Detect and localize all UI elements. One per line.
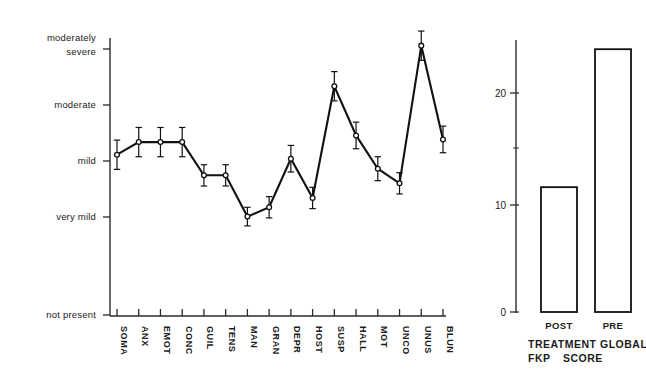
right-y-tick-labels: 20 10 0 <box>495 88 507 318</box>
data-point-unco <box>397 181 402 186</box>
right-y-label-20: 20 <box>495 88 507 99</box>
x-label-depr: DEPR <box>292 326 302 353</box>
x-label-unco: UNCO <box>401 326 411 355</box>
x-label-susp: SUSP <box>336 326 346 353</box>
bar-label-post: POST <box>545 320 572 331</box>
left-y-ticks <box>103 49 110 315</box>
x-label-host: HOST <box>314 326 324 353</box>
data-point-mot <box>375 166 380 171</box>
bar-pre <box>595 49 631 312</box>
data-point-guil <box>202 173 207 178</box>
left-x-ticks <box>117 309 443 316</box>
caption-treatment: TREATMENT <box>528 338 597 350</box>
x-label-mot: MOT <box>379 326 389 348</box>
caption-global: GLOBAL <box>600 338 646 350</box>
right-y-label-10: 10 <box>495 200 507 211</box>
left-x-tick-labels: SOMAANXEMOTCONCGUILTENSMANGRANDEPRHOSTSU… <box>119 326 455 355</box>
data-point-soma <box>115 152 120 157</box>
right-y-label-0: 0 <box>500 307 506 318</box>
data-point-susp <box>332 84 337 89</box>
figure-root: moderately severe moderate mild very mil… <box>0 0 646 376</box>
left-y-tick-labels: moderately severe moderate mild very mil… <box>46 32 96 320</box>
data-point-host <box>310 196 315 201</box>
x-label-man: MAN <box>249 326 259 348</box>
bar-labels-group: POSTPRE <box>545 320 623 331</box>
x-label-gran: GRAN <box>271 326 281 355</box>
data-point-hall <box>354 133 359 138</box>
bprs-series-line <box>117 46 443 217</box>
x-label-soma: SOMA <box>119 326 129 355</box>
data-point-markers <box>115 43 446 219</box>
caption-fkp: FKP <box>528 352 551 364</box>
bars-group <box>541 49 631 312</box>
y-label-not-present: not present <box>46 309 96 320</box>
bar-label-pre: PRE <box>603 320 624 331</box>
left-panel: moderately severe moderate mild very mil… <box>46 31 454 355</box>
bar-post <box>541 187 577 312</box>
data-point-anx <box>136 140 141 145</box>
x-label-conc: CONC <box>184 326 194 355</box>
data-point-man <box>245 214 250 219</box>
data-point-tens <box>223 173 228 178</box>
x-label-tens: TENS <box>227 326 237 352</box>
x-label-hall: HALL <box>358 326 368 352</box>
error-bars-group <box>114 31 446 226</box>
y-label-moderately-severe-line2: severe <box>66 46 96 57</box>
x-label-blun: BLUN <box>445 326 455 353</box>
x-label-guil: GUIL <box>205 326 215 350</box>
data-point-conc <box>180 140 185 145</box>
x-label-unus: UNUS <box>423 326 433 354</box>
data-point-emot <box>158 140 163 145</box>
right-panel: 20 10 0 POSTPRE TREATMENT GLOBAL FKP SCO… <box>495 40 646 364</box>
y-label-mild: mild <box>78 155 96 166</box>
y-label-very-mild: very mild <box>56 211 96 222</box>
data-point-gran <box>267 205 272 210</box>
y-label-moderately-severe-line1: moderately <box>47 32 96 43</box>
y-label-moderate: moderate <box>54 99 96 110</box>
x-label-emot: EMOT <box>162 326 172 354</box>
caption-score: SCORE <box>563 352 603 364</box>
data-point-blun <box>441 137 446 142</box>
data-point-unus <box>419 43 424 48</box>
data-point-depr <box>288 156 293 161</box>
x-label-anx: ANX <box>140 326 150 347</box>
right-y-ticks <box>510 93 519 312</box>
